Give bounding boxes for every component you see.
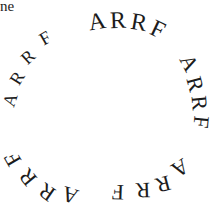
letter-f: F <box>31 23 59 52</box>
letter-f: F <box>189 111 213 133</box>
circular-text-ring: ARRFARRFARRFARRFARRF <box>0 0 221 211</box>
letter-r: R <box>133 179 154 202</box>
letter-r: R <box>108 9 129 32</box>
letter-f: F <box>108 181 129 204</box>
letter-a: A <box>57 181 83 208</box>
letter-a: A <box>85 8 109 33</box>
